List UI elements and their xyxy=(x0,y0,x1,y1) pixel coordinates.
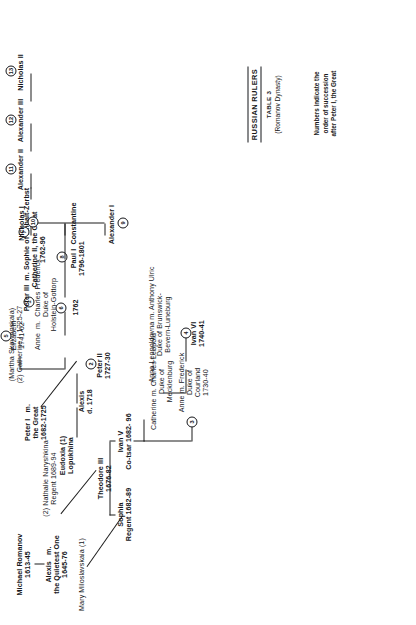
legend-table-number: TABLE 3 xyxy=(264,45,272,163)
node-eudoxia-lopukhina: Eudoxia (1) Lopukhina xyxy=(59,425,75,485)
line-alexis-to-peter-ii xyxy=(76,373,77,403)
tick-ivan5 xyxy=(109,440,115,441)
succession-number-11: 11 xyxy=(5,163,16,174)
node-ivan-vi: Ivan VI 1740-41 xyxy=(190,311,206,355)
succession-number-6: 6 xyxy=(55,302,66,313)
line-ivan5-down xyxy=(133,440,143,441)
legend-title: RUSSIAN RULERS xyxy=(247,66,261,141)
succession-number-12: 12 xyxy=(5,114,16,125)
rotated-chart-container: Michael Romanov 1613-45 Alexis m. the Qu… xyxy=(0,0,416,625)
line-michael-to-alexis xyxy=(34,563,44,564)
family-tree: Michael Romanov 1613-45 Alexis m. the Qu… xyxy=(0,0,416,625)
tick-sophia xyxy=(109,514,115,515)
node-alexander-iii: Alexander III xyxy=(17,91,25,149)
node-anne-courland: Anne m. Frederick Duke of Courland 1730-… xyxy=(178,345,210,419)
legend-note-line-2: order of succession xyxy=(321,47,330,159)
line-anna-to-ivan6 xyxy=(185,337,186,361)
line-anna-bar xyxy=(185,369,186,393)
node-nicholas-ii: Nicholas II xyxy=(17,45,25,99)
legend-note: Numbers indicate the order of succession… xyxy=(312,47,338,159)
succession-number-2: 2 xyxy=(85,358,96,369)
node-peter-iii-year: 1762 xyxy=(72,295,80,319)
node-constantine: Constantine xyxy=(70,195,78,251)
node-mary-miloslavskaia: Mary Miloslavskaia (1) xyxy=(78,514,86,625)
succession-number-4: 4 xyxy=(180,327,191,338)
line-catherine-to-anna xyxy=(163,392,185,393)
line-peter-iii-to-paul xyxy=(64,259,65,297)
node-sophia: Sophia Regent 1682-89 xyxy=(117,477,133,551)
node-anna-leopoldovna: Anna Leopoldovna m. Anthony Ulric Duke o… xyxy=(148,259,172,389)
node-alexis: Alexis m. the Quietest One 1645-76 xyxy=(45,524,69,604)
succession-number-5: 5 xyxy=(0,330,11,341)
succession-number-9: 9 xyxy=(117,217,128,228)
line-to-alexander-i xyxy=(104,223,105,235)
node-alexis-son: Alexis d. 1718 xyxy=(78,381,94,421)
line-peter1-children-spine xyxy=(19,368,64,369)
line-alexander-iii-down xyxy=(30,73,31,101)
succession-number-13: 13 xyxy=(5,65,16,76)
line-anne-to-peter-iii xyxy=(64,311,65,335)
legend-note-line-3: after Peter I, the Great xyxy=(329,47,338,159)
node-theodore-iii: Theodore III 1676-82 xyxy=(97,453,113,503)
line-to-constantine xyxy=(64,223,65,235)
node-michael-romanov: Michael Romanov 1613-45 xyxy=(16,521,32,607)
succession-number-3: 3 xyxy=(186,416,197,427)
succession-number-10: 10 xyxy=(27,216,38,227)
line-alexander-ii-down xyxy=(30,123,31,151)
node-nicholas-i: Nicholas I xyxy=(18,199,26,247)
line-to-anne-holstein xyxy=(64,357,65,369)
node-peter-ii: Peter II 1727-30 xyxy=(96,343,112,387)
legend-block: RUSSIAN RULERS TABLE 3 (Romanov Dynasty) xyxy=(240,45,282,163)
node-peter-iii: Peter III m. Sophie of Anhalt-Zerbst Cat… xyxy=(23,173,47,325)
legend-dynasty: (Romanov Dynasty) xyxy=(273,45,282,163)
node-alexander-i: Alexander I xyxy=(108,195,116,253)
line-ivan5-children-spine xyxy=(143,440,191,441)
line-to-catherine-mecklenburg xyxy=(143,419,144,441)
line-paul-children-spine xyxy=(30,222,104,223)
line-nicholas-i-down xyxy=(30,173,31,199)
genealogy-chart-page: Michael Romanov 1613-45 Alexis m. the Qu… xyxy=(0,0,416,625)
legend-note-line-1: Numbers indicate the xyxy=(312,47,321,159)
node-ivan-v: Ivan V Co-tsar 1682- 96 xyxy=(117,408,133,474)
